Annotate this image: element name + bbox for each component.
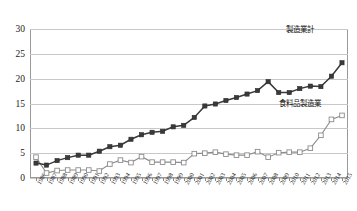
data-point	[55, 159, 59, 163]
data-point	[171, 160, 176, 165]
data-point	[108, 162, 113, 167]
data-point	[234, 153, 239, 158]
data-point	[44, 163, 48, 167]
data-point	[203, 151, 208, 156]
data-point	[44, 171, 49, 176]
data-point	[213, 150, 218, 155]
data-point	[118, 158, 123, 163]
data-point	[55, 168, 60, 173]
data-point	[160, 160, 165, 165]
data-point	[287, 90, 291, 94]
series-food-manufacturing	[34, 113, 345, 175]
data-point	[234, 95, 238, 99]
data-point	[203, 104, 207, 108]
data-point	[150, 160, 155, 165]
data-point	[276, 150, 281, 155]
data-point	[129, 160, 134, 165]
data-point	[129, 137, 133, 141]
data-point	[340, 113, 345, 118]
data-point	[34, 161, 38, 165]
data-point	[255, 88, 259, 92]
data-point	[192, 151, 197, 156]
data-point	[245, 92, 249, 96]
data-point	[65, 168, 70, 173]
chart-container: 051015202530 198619871988198919901991199…	[0, 0, 357, 211]
data-point	[118, 143, 122, 147]
data-point	[319, 133, 324, 138]
data-point	[224, 152, 229, 157]
data-point	[150, 130, 154, 134]
data-point	[298, 87, 302, 91]
data-point	[266, 80, 270, 84]
data-point	[108, 145, 112, 149]
data-point	[97, 169, 102, 174]
annotation-total-label: 製造業計	[286, 23, 314, 34]
data-point	[319, 85, 323, 89]
data-point	[139, 133, 143, 137]
data-point	[308, 84, 312, 88]
data-point	[181, 160, 186, 165]
data-point	[340, 61, 344, 65]
annotation-food-label: 食料品製造業	[279, 97, 321, 108]
data-point	[213, 102, 217, 106]
data-point	[266, 155, 271, 160]
data-point	[297, 150, 302, 155]
data-point	[161, 129, 165, 133]
data-point	[245, 153, 250, 158]
data-point	[87, 153, 91, 157]
data-point	[139, 154, 144, 159]
data-point	[182, 123, 186, 127]
data-point	[66, 156, 70, 160]
data-point	[171, 125, 175, 129]
data-point	[76, 168, 81, 173]
data-point	[192, 115, 196, 119]
series-line	[36, 63, 342, 165]
data-point	[277, 90, 281, 94]
data-point	[287, 150, 292, 155]
data-point	[34, 155, 39, 160]
series-line	[36, 115, 342, 173]
data-point	[86, 168, 91, 173]
data-point	[224, 98, 228, 102]
data-point	[329, 117, 334, 122]
data-point	[76, 153, 80, 157]
data-point	[329, 74, 333, 78]
data-point	[308, 146, 313, 151]
data-point	[97, 149, 101, 153]
data-point	[255, 149, 260, 154]
